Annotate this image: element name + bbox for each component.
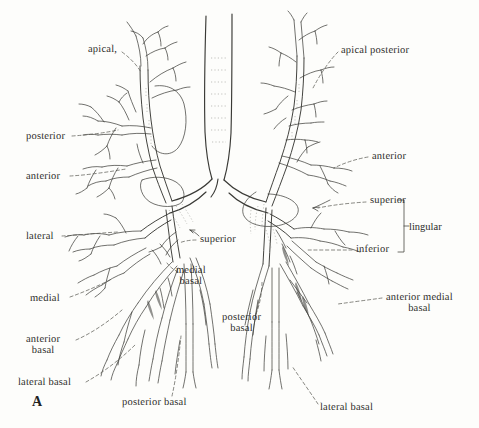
lower-lobe-right: [263, 208, 272, 266]
label-lingular: lingular: [409, 221, 442, 232]
main-bronchi: [170, 179, 268, 213]
panel-mark-a: A: [32, 394, 42, 410]
lingular-bracket: [398, 200, 409, 252]
leader-lateral-basal-right: [292, 366, 318, 404]
leader-lines: [62, 52, 382, 404]
leader-posterior: [72, 130, 118, 136]
apical-posterior-segment: [261, 11, 334, 153]
label-medial-basal: medial basal: [176, 265, 206, 287]
label-medial: medial: [30, 294, 60, 305]
label-lateral-basal-right: lateral basal: [320, 403, 373, 414]
trachea-cartilage-rings: [211, 58, 226, 142]
label-posterior-basal: posterior basal: [122, 398, 187, 409]
left-panel-bronchial-tree: [65, 22, 218, 388]
label-apical-posterior: apical posterior: [341, 46, 409, 57]
label-anterior-medial-basal: anterior medial basal: [386, 292, 453, 314]
posterior-segment-left: [79, 85, 151, 159]
lateral-segment-left: [65, 214, 145, 261]
trachea: [205, 14, 232, 180]
hilar-shade-right: [282, 246, 309, 316]
leader-anterior-left: [70, 169, 126, 176]
leader-anterior-basal: [76, 310, 122, 340]
label-apical: apical,: [88, 45, 117, 56]
leader-anterior-right: [334, 157, 368, 168]
leader-lateral-basal: [86, 344, 136, 382]
apical-segment-left: [127, 22, 190, 98]
leader-apical: [122, 52, 141, 72]
label-lateral: lateral: [26, 232, 54, 243]
label-anterior-right: anterior: [372, 152, 406, 163]
leader-medial: [70, 279, 112, 297]
label-posterior-basal-right: posterior basal: [222, 312, 261, 334]
label-superior-right: superior: [370, 196, 406, 207]
anterior-segment-left: [76, 144, 157, 199]
label-anterior-basal: anterior basal: [26, 334, 60, 356]
right-panel-bronchial-tree: [190, 11, 368, 389]
anterior-segment-right: [279, 142, 352, 193]
leader-anterior-medial-basal: [338, 298, 382, 304]
leader-posterior-basal-left: [172, 336, 181, 396]
hilar-detail-right: [276, 230, 297, 274]
leader-superior-right: [318, 202, 366, 208]
pointer-arrow-left: [190, 230, 199, 236]
hilar-detail-left: [152, 244, 172, 308]
label-anterior-left: anterior: [26, 172, 60, 183]
bronchogram-illustration: .t{fill:none;stroke:#3a3a36;stroke-linec…: [0, 0, 479, 428]
bronchial-tree-figure: .t{fill:none;stroke:#3a3a36;stroke-linec…: [0, 0, 479, 428]
label-posterior: posterior: [26, 132, 65, 143]
leader-superior-left: [179, 240, 196, 243]
label-superior-left: superior: [200, 235, 236, 246]
pointer-arrow-right: [313, 200, 330, 211]
label-lateral-basal: lateral basal: [18, 378, 71, 389]
label-inferior-right: inferior: [356, 245, 389, 256]
